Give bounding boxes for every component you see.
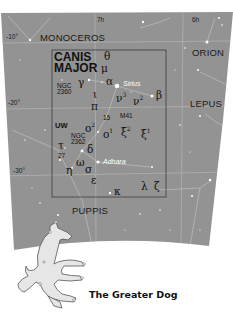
label-adhara: Adhara bbox=[103, 158, 126, 165]
label-alpha: α bbox=[106, 76, 113, 87]
label-eta: η bbox=[66, 165, 72, 176]
label-monoceros: MONOCEROS bbox=[40, 33, 105, 43]
ra-label-6h: 6h bbox=[192, 17, 199, 24]
label-theta: θ bbox=[104, 51, 110, 62]
label-m41: M41 bbox=[120, 112, 133, 119]
label-27: 27 bbox=[58, 152, 65, 159]
label-lepus: LEPUS bbox=[190, 99, 222, 109]
label-xi2: ξ2 bbox=[121, 126, 131, 137]
label-kappa: κ bbox=[114, 186, 121, 197]
label-tau: τ bbox=[58, 140, 64, 151]
dec-label-minus30: -30° bbox=[13, 168, 25, 175]
label-puppis: PUPPIS bbox=[72, 206, 108, 216]
label-iota: ι bbox=[93, 89, 97, 100]
label-omega: ω bbox=[76, 157, 85, 168]
label-mu: μ bbox=[101, 63, 108, 74]
label-uw: UW bbox=[55, 122, 68, 129]
dec-label-minus20: -20° bbox=[8, 100, 20, 107]
label-ngc2360-2: 2360 bbox=[57, 88, 71, 95]
ra-label-7h: 7h bbox=[97, 17, 104, 24]
label-nu3: ν3 bbox=[116, 92, 126, 103]
label-omicron2: ο2 bbox=[85, 122, 95, 133]
label-nu2: ν2 bbox=[133, 95, 143, 106]
label-canis-major-line2: MAJOR bbox=[54, 63, 97, 74]
label-sigma: σ bbox=[85, 164, 92, 175]
label-xi1: ξ1 bbox=[141, 128, 151, 139]
label-delta: δ bbox=[87, 144, 93, 155]
label-gamma: γ bbox=[78, 77, 84, 88]
label-15: 15 bbox=[103, 114, 110, 121]
caption: The Greater Dog bbox=[89, 290, 178, 300]
label-orion: ORION bbox=[192, 48, 224, 58]
label-sirius: Sirius bbox=[123, 80, 141, 87]
label-zeta: ζ bbox=[154, 181, 160, 192]
dec-label-minus10: -10° bbox=[6, 34, 18, 41]
label-beta: β bbox=[156, 90, 162, 101]
label-lambda: λ bbox=[141, 181, 148, 192]
label-pi: π bbox=[91, 101, 98, 112]
label-omicron1: ο1 bbox=[103, 128, 113, 139]
label-epsilon: ε bbox=[91, 175, 96, 186]
label-ngc2362-2: 2362 bbox=[71, 138, 85, 145]
